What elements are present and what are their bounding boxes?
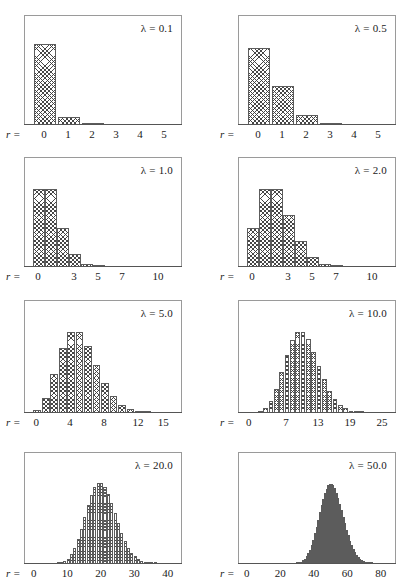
bar bbox=[279, 372, 284, 413]
x-tick-label: 1 bbox=[65, 128, 71, 140]
x-tick-label: 5 bbox=[375, 128, 381, 140]
x-tick-label: 40 bbox=[308, 567, 319, 579]
plot-area bbox=[33, 473, 177, 564]
plot-frame: λ = 5.0 bbox=[24, 300, 182, 413]
bar bbox=[93, 365, 101, 413]
bar bbox=[42, 398, 50, 414]
x-tick-label: 7 bbox=[283, 416, 289, 428]
bar bbox=[301, 332, 306, 413]
bar bbox=[248, 48, 270, 125]
panel-lambda-5-0: λ = 5.0r =0481215 bbox=[24, 300, 182, 435]
x-tick-label: 0 bbox=[35, 270, 41, 282]
x-tick-label: 10 bbox=[62, 567, 73, 579]
bar bbox=[59, 348, 67, 413]
panel-lambda-2-0: λ = 2.0r =035710 bbox=[238, 157, 396, 289]
poisson-distribution-figure: λ = 0.1r =012345λ = 0.5r =012345λ = 1.0r… bbox=[0, 0, 414, 583]
x-tick-label: 20 bbox=[275, 567, 286, 579]
x-tick-label: 3 bbox=[71, 270, 77, 282]
x-axis-caption: r = bbox=[6, 270, 20, 282]
lambda-annotation: λ = 0.1 bbox=[141, 22, 173, 34]
bar bbox=[306, 339, 311, 413]
bar bbox=[110, 396, 118, 413]
bar bbox=[76, 332, 84, 413]
panel-lambda-1-0: λ = 1.0r =035710 bbox=[24, 157, 182, 289]
x-tick-label: 3 bbox=[285, 270, 291, 282]
x-axis-caption: r = bbox=[6, 416, 20, 428]
lambda-annotation: λ = 0.5 bbox=[355, 22, 387, 34]
x-tick-label: 1 bbox=[279, 128, 285, 140]
x-axis-caption: r = bbox=[220, 270, 234, 282]
lambda-annotation: λ = 20.0 bbox=[135, 459, 173, 471]
lambda-annotation: λ = 50.0 bbox=[349, 459, 387, 471]
x-tick-label: 19 bbox=[345, 416, 356, 428]
panel-lambda-0-5: λ = 0.5r =012345 bbox=[238, 15, 396, 147]
bar bbox=[290, 340, 295, 413]
x-axis-caption: r = bbox=[6, 128, 20, 140]
panel-lambda-0-1: λ = 0.1r =012345 bbox=[24, 15, 182, 147]
x-axis-line bbox=[238, 124, 396, 125]
plot-frame: λ = 20.0 bbox=[24, 452, 182, 564]
r-variable-label: r = bbox=[6, 416, 20, 428]
bar bbox=[259, 189, 270, 267]
plot-area bbox=[33, 36, 177, 125]
x-tick-label: 4 bbox=[137, 128, 143, 140]
x-tick-label: 0 bbox=[31, 567, 37, 579]
x-tick-label: 2 bbox=[303, 128, 309, 140]
plot-frame: λ = 10.0 bbox=[238, 300, 396, 413]
x-tick-label: 5 bbox=[309, 270, 315, 282]
x-axis-line bbox=[238, 563, 396, 564]
bar-series bbox=[33, 36, 177, 125]
x-tick-label: 3 bbox=[327, 128, 333, 140]
x-tick-label: 0 bbox=[246, 416, 252, 428]
bar bbox=[101, 383, 109, 413]
x-tick-label: 3 bbox=[113, 128, 119, 140]
x-tick-label: 0 bbox=[244, 567, 250, 579]
r-variable-label: r = bbox=[220, 416, 234, 428]
x-tick-label: 13 bbox=[313, 416, 324, 428]
plot-area bbox=[33, 178, 177, 267]
r-variable-label: r = bbox=[6, 128, 20, 140]
x-tick-label: 0 bbox=[249, 270, 255, 282]
bar bbox=[317, 366, 322, 413]
x-axis-caption: r = bbox=[220, 416, 234, 428]
lambda-annotation: λ = 10.0 bbox=[349, 307, 387, 319]
x-axis-caption: r = bbox=[220, 567, 234, 579]
x-tick-label: 0 bbox=[255, 128, 261, 140]
bar-series bbox=[247, 178, 391, 267]
plot-frame: λ = 0.1 bbox=[24, 15, 182, 125]
bar bbox=[333, 399, 338, 413]
plot-frame: λ = 0.5 bbox=[238, 15, 396, 125]
x-axis-caption: r = bbox=[6, 567, 20, 579]
x-tick-label: 10 bbox=[367, 270, 378, 282]
bar bbox=[272, 86, 294, 125]
plot-area bbox=[247, 178, 391, 267]
bar bbox=[295, 241, 306, 267]
bar bbox=[295, 332, 300, 413]
bar bbox=[33, 189, 44, 267]
x-tick-label: 15 bbox=[158, 416, 169, 428]
bar-series bbox=[33, 473, 177, 564]
r-variable-label: r = bbox=[6, 567, 20, 579]
bar bbox=[57, 228, 68, 267]
bar bbox=[274, 389, 279, 413]
r-variable-label: r = bbox=[6, 270, 20, 282]
x-tick-label: 0 bbox=[41, 128, 47, 140]
bar-series bbox=[33, 321, 177, 413]
lambda-annotation: λ = 5.0 bbox=[141, 307, 173, 319]
x-tick-label: 8 bbox=[101, 416, 107, 428]
panel-lambda-10-0: λ = 10.0r =07131925 bbox=[238, 300, 396, 435]
x-tick-label: 25 bbox=[377, 416, 388, 428]
bar-series bbox=[247, 321, 391, 413]
x-axis-line bbox=[24, 412, 182, 413]
x-tick-label: 5 bbox=[95, 270, 101, 282]
x-tick-label: 2 bbox=[89, 128, 95, 140]
x-tick-label: 20 bbox=[95, 567, 106, 579]
x-tick-label: 4 bbox=[351, 128, 357, 140]
x-tick-label: 40 bbox=[162, 567, 173, 579]
plot-frame: λ = 2.0 bbox=[238, 157, 396, 267]
bar-series bbox=[247, 36, 391, 125]
bar bbox=[271, 189, 282, 267]
x-tick-label: 10 bbox=[153, 270, 164, 282]
bar bbox=[84, 346, 92, 413]
bar bbox=[50, 374, 58, 413]
